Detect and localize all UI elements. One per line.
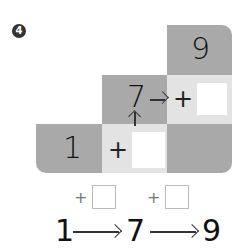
plus-sign-step2: + <box>173 87 193 111</box>
seq-middle: 7 <box>126 216 145 246</box>
seq-plus-1: + <box>74 190 87 206</box>
plus-sign-step1: + <box>108 138 128 162</box>
answer-box-step1[interactable] <box>132 132 165 168</box>
value-nine: 9 <box>191 31 210 66</box>
cell-nine: 9 <box>167 25 232 75</box>
cell-add-step1: + <box>102 124 167 173</box>
value-seven: 7 <box>127 79 146 114</box>
cell-empty-bottom-right <box>167 124 232 173</box>
cell-one: 1 <box>36 124 102 173</box>
value-one: 1 <box>63 130 82 165</box>
cell-add-step2: + <box>167 75 232 124</box>
seq-plus-2: + <box>147 190 160 206</box>
seq-end: 9 <box>202 216 221 246</box>
answer-box-step2[interactable] <box>197 83 227 115</box>
seq-arrow-1-icon <box>108 224 122 238</box>
seq-arrow-2-icon <box>185 224 199 238</box>
seq-answer-box-2[interactable] <box>165 185 189 209</box>
seq-start: 1 <box>55 216 74 246</box>
problem-number-badge: 4 <box>12 24 26 38</box>
seq-answer-box-1[interactable] <box>92 185 116 209</box>
